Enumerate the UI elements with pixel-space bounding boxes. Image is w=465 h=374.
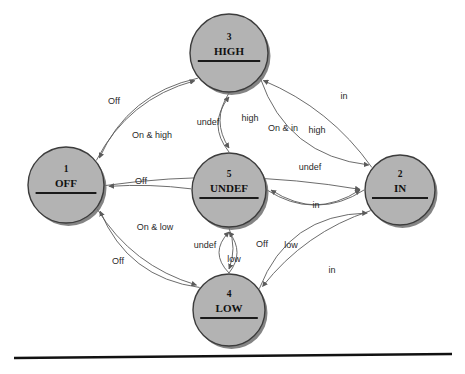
edge-label-off-to-low: On & low	[137, 222, 174, 232]
edge-label-undef-to-high: high	[241, 113, 258, 123]
edge-label-in-to-high: high	[308, 125, 325, 135]
edge-label-undef-to-off: Off	[135, 176, 147, 186]
edge-label-undef-to-in: undef	[299, 162, 322, 172]
edge-label-undef-to-low: low	[227, 254, 241, 264]
state-node-off[interactable]: 1OFF	[28, 147, 107, 226]
bottom-horizontal-rule	[14, 354, 452, 358]
edge-off-to-high	[96, 81, 194, 161]
edge-label-in-to-low: low	[284, 240, 298, 250]
edge-high-to-off	[99, 78, 197, 158]
edge-high-to-in	[260, 78, 369, 165]
edge-undef-to-off	[109, 185, 191, 188]
node-label: LOW	[216, 302, 243, 314]
edge-label-off-to-in: On & in	[268, 123, 298, 133]
edge-label-low-to-off: Off	[112, 256, 124, 266]
nodes-layer: 1OFF2IN3HIGH4LOW5UNDEF	[28, 14, 438, 349]
edge-label-high-to-off: Off	[108, 96, 120, 106]
node-index: 5	[227, 169, 232, 179]
diagram-canvas: 1OFF2IN3HIGH4LOW5UNDEF OffOn & highundef…	[0, 0, 465, 374]
edge-label-low-to-undef: undef	[194, 240, 217, 250]
edge-label-in-to-undef: in	[312, 200, 319, 210]
edge-label-low-to-undef: Off	[256, 239, 268, 249]
edge-label-high-to-in: in	[340, 91, 347, 101]
edge-label-off-to-high: On & high	[132, 130, 172, 140]
node-index: 3	[227, 32, 232, 42]
node-label: OFF	[55, 177, 77, 189]
state-node-undef[interactable]: 5UNDEF	[192, 153, 269, 230]
edge-low-to-undef	[219, 232, 229, 273]
node-index: 2	[398, 169, 403, 179]
state-node-low[interactable]: 4LOW	[193, 274, 268, 349]
edge-in-to-low	[263, 211, 371, 287]
state-diagram: 1OFF2IN3HIGH4LOW5UNDEF OffOn & highundef…	[0, 0, 465, 374]
edge-label-low-to-in: in	[328, 265, 335, 275]
edge-off-to-low	[97, 209, 197, 285]
node-index: 4	[227, 289, 232, 299]
node-index: 1	[64, 164, 69, 174]
edge-label-high-to-undef: undef	[197, 117, 220, 127]
state-node-in[interactable]: 2IN	[365, 155, 438, 228]
edge-low-to-in	[259, 213, 367, 289]
node-label: UNDEF	[210, 182, 248, 194]
node-label: HIGH	[214, 45, 244, 57]
state-node-high[interactable]: 3HIGH	[190, 14, 271, 95]
node-label: IN	[394, 182, 406, 194]
edge-undef-to-high	[218, 97, 229, 152]
